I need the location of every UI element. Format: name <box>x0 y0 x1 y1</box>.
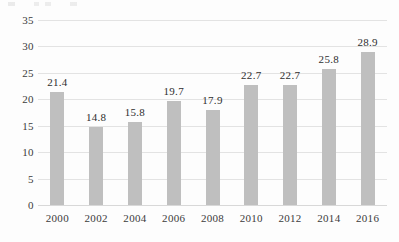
y-tick-label-25: 25 <box>0 68 34 79</box>
bar-value-label: 14.8 <box>86 112 106 123</box>
x-tick-label-2008: 2008 <box>201 212 224 224</box>
x-tick-label-2012: 2012 <box>278 212 301 224</box>
bar-value-label: 28.9 <box>357 37 377 48</box>
bar[interactable] <box>283 85 297 205</box>
bar-slot: 22.7 <box>283 20 297 205</box>
bar[interactable] <box>322 69 336 205</box>
bar-slot: 15.8 <box>128 20 142 205</box>
gridline-0 <box>38 205 387 206</box>
bar-value-label: 21.4 <box>47 77 67 88</box>
x-tick-label-2002: 2002 <box>85 212 108 224</box>
x-tick-label-2004: 2004 <box>123 212 146 224</box>
bar-slot: 28.9 <box>361 20 375 205</box>
bar[interactable] <box>167 101 181 205</box>
bar[interactable] <box>128 122 142 206</box>
bar-slot: 21.4 <box>50 20 64 205</box>
y-tick-label-20: 20 <box>0 94 34 105</box>
bar[interactable] <box>50 92 64 205</box>
x-axis: 200020022004200620082010201220142016 <box>38 212 387 232</box>
x-tick-label-2006: 2006 <box>162 212 185 224</box>
x-tick-label-2014: 2014 <box>317 212 340 224</box>
bar-value-label: 15.8 <box>125 107 145 118</box>
y-tick-label-35: 35 <box>0 15 34 26</box>
x-tick-label-2000: 2000 <box>46 212 69 224</box>
y-tick-label-0: 0 <box>0 200 34 211</box>
bar[interactable] <box>244 85 258 205</box>
bar-slot: 14.8 <box>89 20 103 205</box>
y-tick-label-15: 15 <box>0 121 34 132</box>
bar-slot: 22.7 <box>244 20 258 205</box>
bar-value-label: 17.9 <box>202 95 222 106</box>
y-axis: 05101520253035 <box>0 0 34 242</box>
bar-chart: 05101520253035 21.414.815.819.717.922.72… <box>0 0 399 242</box>
bars-group: 21.414.815.819.717.922.722.725.828.9 <box>38 20 387 205</box>
y-tick-label-5: 5 <box>0 174 34 185</box>
x-tick-label-2016: 2016 <box>356 212 379 224</box>
bar[interactable] <box>206 110 220 205</box>
bar-slot: 19.7 <box>167 20 181 205</box>
bar-value-label: 25.8 <box>319 54 339 65</box>
bar-value-label: 22.7 <box>241 70 261 81</box>
bar-value-label: 19.7 <box>163 86 183 97</box>
bar[interactable] <box>89 127 103 205</box>
bar[interactable] <box>361 52 375 205</box>
bar-value-label: 22.7 <box>280 70 300 81</box>
y-tick-label-10: 10 <box>0 147 34 158</box>
bar-slot: 25.8 <box>322 20 336 205</box>
y-tick-label-30: 30 <box>0 41 34 52</box>
bar-slot: 17.9 <box>206 20 220 205</box>
x-tick-label-2010: 2010 <box>240 212 263 224</box>
